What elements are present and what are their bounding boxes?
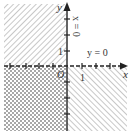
region-quadrant-4 [67,67,127,131]
line-label-y-equals-0: y = 0 [87,47,108,58]
line-label-x-equals-0: x = 0 [71,16,82,37]
x-tick-label-1: 1 [80,72,85,83]
origin-label: O [57,69,64,80]
coordinate-diagram: y x O 1 1 y = 0 x = 0 [0,0,130,136]
x-axis-label: x [122,68,128,80]
y-tick-label-1: 1 [58,46,63,57]
y-axis-label: y [56,1,62,13]
region-quadrant-2 [4,4,66,66]
